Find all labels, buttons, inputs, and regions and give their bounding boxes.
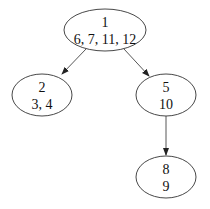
edge-1-to-5 (124, 49, 149, 76)
node-5-sublabel: 10 (159, 97, 173, 112)
node-1-sublabel: 6, 7, 11, 12 (74, 32, 136, 47)
diagram-svg: 1 6, 7, 11, 12 2 3, 4 5 10 8 9 (0, 0, 210, 209)
node-2-sublabel: 3, 4 (32, 97, 53, 112)
node-1: 1 6, 7, 11, 12 (64, 9, 146, 51)
node-5-label: 5 (163, 80, 170, 95)
edge-1-to-2 (62, 49, 86, 74)
node-1-label: 1 (102, 15, 109, 30)
node-8: 8 9 (136, 156, 196, 198)
node-8-sublabel: 9 (163, 179, 170, 194)
tree-diagram: 1 6, 7, 11, 12 2 3, 4 5 10 8 9 (0, 0, 210, 209)
node-5: 5 10 (136, 74, 196, 116)
node-8-label: 8 (163, 162, 170, 177)
node-2-label: 2 (39, 80, 46, 95)
node-2: 2 3, 4 (12, 74, 72, 116)
